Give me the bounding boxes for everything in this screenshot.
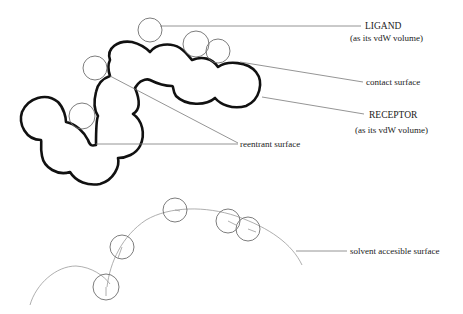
ligand-probes-bottom	[93, 198, 260, 300]
probe-circle	[206, 39, 230, 63]
probe-radius	[118, 247, 122, 258]
solvent-accessible-surface-label: solvent accesible surface	[350, 246, 439, 256]
receptor-shape	[21, 42, 260, 185]
reentrant-surface-label: reentrant surface	[240, 139, 300, 149]
surface-diagram: LIGAND (as its vdW volume) contact surfa…	[0, 0, 463, 314]
ligand-probes-top	[69, 18, 230, 129]
sas-main-arc	[107, 209, 302, 287]
probe-radius	[248, 229, 256, 232]
probe-circle	[69, 103, 95, 129]
probe-radius	[175, 210, 180, 211]
probe-radius	[228, 221, 236, 225]
receptor-leader-line	[262, 97, 364, 114]
probe-circle	[83, 56, 107, 80]
leader-lines	[96, 26, 364, 251]
sas-small-arc	[30, 266, 110, 305]
contact-surface-label: contact surface	[366, 77, 420, 87]
solvent-accessible-surface	[30, 209, 302, 305]
ligand-label: LIGAND	[365, 21, 402, 31]
probe-circle	[183, 31, 209, 57]
reentrant-leader-line-1	[110, 76, 238, 143]
receptor-sublabel: (as its vdW volume)	[355, 125, 428, 135]
probe-circle	[138, 18, 162, 42]
receptor-label: RECEPTOR	[369, 110, 418, 120]
ligand-sublabel: (as its vdW volume)	[350, 33, 423, 43]
labels: LIGAND (as its vdW volume) contact surfa…	[240, 21, 439, 256]
